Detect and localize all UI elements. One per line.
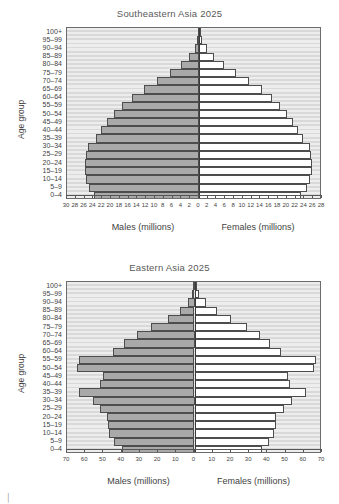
y-axis-tick-label: 35–39 <box>28 134 62 141</box>
plot-area <box>66 281 321 453</box>
male-bar <box>108 421 195 429</box>
pyramid-row <box>67 339 320 347</box>
y-axis-tick-label: 80–84 <box>28 60 62 67</box>
female-bar <box>195 397 292 405</box>
y-axis-tick-label: 10–14 <box>28 175 62 182</box>
x-axis-tick-mark <box>277 195 278 198</box>
x-axis-tick-mark <box>251 195 252 198</box>
x-axis-tick-mark <box>172 195 173 198</box>
pyramid-row <box>67 94 320 102</box>
pyramid-row <box>67 282 320 290</box>
male-bar <box>181 61 199 69</box>
x-axis-tick-label: 30 <box>130 456 148 462</box>
y-axis-tick-label: 30–34 <box>28 396 62 403</box>
male-bar <box>103 372 194 380</box>
female-bar <box>195 307 218 315</box>
page-corner-mark: │ <box>6 493 11 502</box>
x-axis-tick-mark <box>157 449 158 452</box>
pyramid-row <box>67 438 320 446</box>
female-bar <box>199 110 287 118</box>
pyramid-row <box>67 356 320 364</box>
pyramid-row <box>67 364 320 372</box>
pyramid-row <box>67 118 320 126</box>
y-axis-tick-label: 35–39 <box>28 388 62 395</box>
male-bar <box>168 315 194 323</box>
x-axis-tick-mark <box>194 449 195 452</box>
x-axis-tick-mark <box>92 195 93 198</box>
female-bar <box>195 372 289 380</box>
x-axis-tick-label: 70 <box>57 456 75 462</box>
y-axis-tick-label: 85–89 <box>28 52 62 59</box>
x-axis-tick-label: 50 <box>93 456 111 462</box>
pyramid-row <box>67 143 320 151</box>
x-axis-tick-mark <box>175 449 176 452</box>
y-axis-title: Age group <box>16 100 26 139</box>
male-bar <box>107 118 199 126</box>
x-axis-tick-mark <box>230 449 231 452</box>
x-axis-tick-mark <box>198 195 199 198</box>
male-bar <box>157 77 199 85</box>
x-axis-tick-label: 20 <box>148 456 166 462</box>
pyramid-row <box>67 372 320 380</box>
y-axis-tick-label: 45–49 <box>28 372 62 379</box>
y-axis-tick-label: 100+ <box>28 282 62 289</box>
male-bar <box>144 85 199 93</box>
pyramid-row <box>67 323 320 331</box>
male-bar <box>132 94 199 102</box>
chart-eastern-asia: Eastern Asia 2025100+95–9990–9485–8980–8… <box>0 252 339 504</box>
female-bar <box>195 364 314 372</box>
y-axis-tick-label: 20–24 <box>28 413 62 420</box>
y-axis-tick-label: 70–74 <box>28 331 62 338</box>
x-axis-tick-mark <box>224 195 225 198</box>
female-bar <box>199 61 224 69</box>
x-axis-tick-mark <box>66 449 67 452</box>
pyramid-row <box>67 102 320 110</box>
x-axis-tick-mark <box>163 195 164 198</box>
x-axis-tick-label: 28 <box>312 202 330 208</box>
female-bar <box>195 356 316 364</box>
male-bar <box>89 184 199 192</box>
bar-rows <box>67 28 320 198</box>
pyramid-row <box>67 126 320 134</box>
pyramid-row <box>67 380 320 388</box>
female-bar <box>195 331 261 339</box>
x-axis-tick-mark <box>303 449 304 452</box>
pyramid-row <box>67 167 320 175</box>
female-bar <box>195 388 306 396</box>
y-axis-tick-label: 0–4 <box>28 191 62 198</box>
male-bar <box>101 126 199 134</box>
female-bar <box>195 421 276 429</box>
pyramid-row <box>67 388 320 396</box>
male-bar <box>107 413 194 421</box>
y-axis-tick-label: 100+ <box>28 28 62 35</box>
male-bar <box>151 323 195 331</box>
y-axis-tick-label: 40–44 <box>28 126 62 133</box>
y-axis-tick-label: 15–19 <box>28 421 62 428</box>
x-axis-tick-mark <box>180 195 181 198</box>
x-axis-tick-mark <box>136 195 137 198</box>
y-axis-tick-label: 75–79 <box>28 323 62 330</box>
y-axis-tick-label: 65–69 <box>28 339 62 346</box>
males-axis-title: Males (millions) <box>84 476 194 486</box>
male-bar <box>122 102 199 110</box>
male-bar <box>100 405 195 413</box>
pyramid-row <box>67 44 320 52</box>
pyramid-row <box>67 405 320 413</box>
y-axis-tick-label: 10–14 <box>28 429 62 436</box>
males-axis-title: Males (millions) <box>88 222 198 232</box>
x-axis-tick-mark <box>321 449 322 452</box>
x-axis-tick-mark <box>303 195 304 198</box>
x-axis-tick-mark <box>268 195 269 198</box>
pyramid-row <box>67 331 320 339</box>
x-axis-tick-mark <box>84 195 85 198</box>
male-bar <box>86 175 199 183</box>
pyramid-row <box>67 134 320 142</box>
pyramid-row <box>67 69 320 77</box>
y-axis-tick-label: 65–69 <box>28 85 62 92</box>
male-bar <box>85 167 199 175</box>
female-bar <box>195 339 271 347</box>
y-axis-tick-label: 95–99 <box>28 290 62 297</box>
y-axis-tick-label: 25–29 <box>28 150 62 157</box>
y-axis-tick-label: 20–24 <box>28 159 62 166</box>
female-bar <box>199 134 303 142</box>
